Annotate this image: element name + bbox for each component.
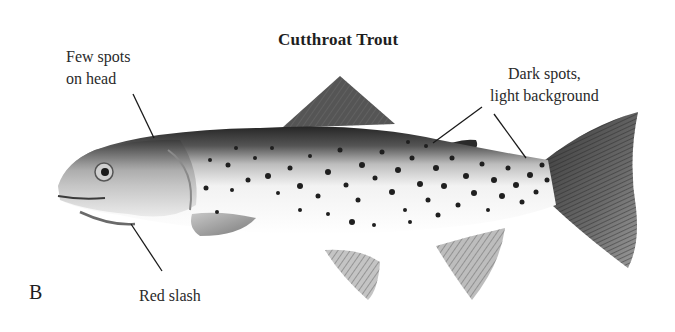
fish-head — [58, 140, 197, 217]
pectoral-fin — [191, 213, 256, 236]
anal-fin — [436, 228, 505, 300]
figure-canvas: Cutthroat Trout Few spots on head Dark s… — [0, 0, 675, 332]
pelvic-fin — [325, 250, 380, 300]
dorsal-fin — [282, 76, 395, 128]
leader-few-spots — [133, 94, 154, 138]
tail-fin — [545, 112, 638, 268]
leader-red-slash — [131, 224, 162, 271]
eye — [95, 163, 113, 181]
trout-illustration — [0, 0, 675, 332]
leader-dark-spots-left — [433, 107, 482, 143]
